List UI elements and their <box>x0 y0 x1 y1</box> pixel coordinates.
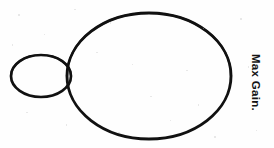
max-gain-label: Max Gain. <box>249 38 262 128</box>
diagram-background <box>0 0 274 148</box>
radiation-pattern-diagram <box>0 0 274 148</box>
figure-container: Max Gain. <box>0 0 274 148</box>
